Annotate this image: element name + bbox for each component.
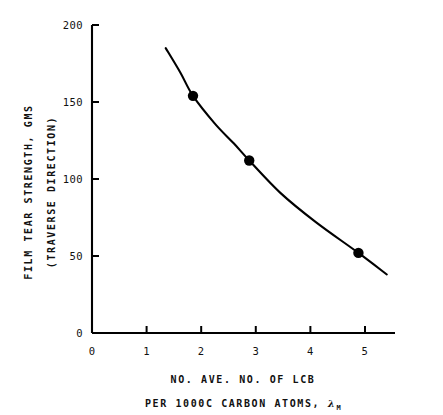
chart-figure: 050100150200 012345 FILM TEAR STRENGTH, … — [0, 0, 443, 415]
lambda-subscript: M — [336, 404, 341, 412]
data-point-marker — [188, 91, 198, 101]
data-point-marker — [244, 155, 254, 165]
chart-canvas: 050100150200 012345 FILM TEAR STRENGTH, … — [0, 0, 443, 415]
x-axis-title-line-1: NO. AVE. NO. OF LCB — [171, 374, 316, 385]
x-tick-label: 4 — [307, 345, 314, 357]
x-tick-label: 5 — [362, 345, 369, 357]
y-axis-title-line-2: (TRAVERSE DIRECTION) — [46, 116, 57, 268]
data-point-marker — [353, 248, 363, 258]
y-tick-label: 0 — [76, 327, 83, 339]
y-axis-title-line-1: FILM TEAR STRENGTH, GMS — [23, 104, 34, 279]
figure-background — [0, 0, 443, 415]
x-tick-label: 3 — [252, 345, 259, 357]
x-axis-title-line-2-text: PER 1000C CARBON ATOMS, — [145, 398, 328, 409]
y-tick-label: 150 — [63, 96, 83, 108]
x-tick-label: 2 — [198, 345, 205, 357]
x-tick-label: 1 — [143, 345, 150, 357]
y-tick-label: 200 — [63, 19, 83, 31]
y-tick-label: 100 — [63, 173, 83, 185]
x-tick-label: 0 — [89, 345, 96, 357]
y-tick-label: 50 — [70, 250, 83, 262]
lambda-symbol: λ — [327, 398, 337, 409]
